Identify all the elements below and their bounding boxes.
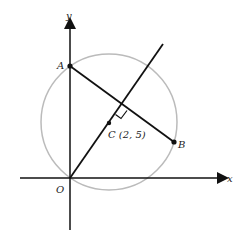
point-c: [107, 121, 111, 125]
diagram-canvas: y x O A B C (2, 5): [0, 0, 241, 245]
point-b: [171, 139, 176, 144]
label-origin: O: [56, 184, 64, 195]
label-b: B: [177, 139, 185, 150]
label-x-axis: x: [227, 173, 233, 184]
label-a: A: [56, 60, 64, 71]
label-y-axis: y: [65, 10, 72, 21]
label-c: C (2, 5): [108, 129, 146, 140]
right-angle-marker: [116, 111, 128, 119]
line-oc: [70, 44, 163, 178]
point-a: [67, 63, 72, 68]
